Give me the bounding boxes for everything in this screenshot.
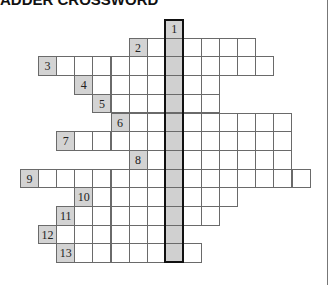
crossword-cell[interactable] (56, 225, 75, 245)
crossword-cell[interactable] (74, 56, 93, 76)
crossword-cell[interactable] (273, 169, 292, 189)
crossword-cell[interactable] (129, 206, 148, 226)
crossword-cell-key[interactable] (165, 131, 184, 151)
crossword-cell[interactable] (201, 38, 220, 58)
crossword-cell[interactable] (56, 169, 75, 189)
crossword-cell[interactable] (147, 75, 166, 95)
crossword-cell[interactable] (237, 131, 256, 151)
crossword-cell[interactable] (92, 131, 111, 151)
crossword-cell[interactable] (111, 75, 130, 95)
crossword-cell-key[interactable] (165, 113, 184, 133)
crossword-cell[interactable] (111, 94, 130, 114)
crossword-cell[interactable] (219, 150, 238, 170)
crossword-cell[interactable] (92, 206, 111, 226)
crossword-cell[interactable] (201, 206, 220, 226)
crossword-cell[interactable] (129, 56, 148, 76)
crossword-cell[interactable] (147, 94, 166, 114)
crossword-cell-numbered-6[interactable]: 6 (111, 113, 130, 133)
crossword-cell[interactable] (147, 150, 166, 170)
crossword-cell-numbered-8[interactable]: 8 (129, 150, 148, 170)
crossword-cell-key[interactable] (165, 56, 184, 76)
crossword-cell[interactable] (255, 150, 274, 170)
crossword-cell[interactable] (111, 56, 130, 76)
crossword-cell[interactable] (111, 206, 130, 226)
crossword-cell[interactable] (92, 169, 111, 189)
crossword-cell[interactable] (273, 131, 292, 151)
crossword-cell[interactable] (147, 131, 166, 151)
crossword-cell[interactable] (147, 187, 166, 207)
crossword-cell[interactable] (201, 113, 220, 133)
crossword-cell[interactable] (219, 38, 238, 58)
crossword-cell[interactable] (38, 169, 57, 189)
crossword-cell[interactable] (219, 187, 238, 207)
crossword-cell-key[interactable] (165, 75, 184, 95)
crossword-cell[interactable] (292, 169, 311, 189)
crossword-cell[interactable] (183, 56, 202, 76)
crossword-cell-numbered-1[interactable]: 1 (165, 19, 184, 39)
crossword-cell[interactable] (201, 187, 220, 207)
crossword-cell[interactable] (201, 56, 220, 76)
crossword-cell[interactable] (219, 131, 238, 151)
crossword-cell[interactable] (183, 94, 202, 114)
crossword-cell[interactable] (273, 150, 292, 170)
crossword-cell[interactable] (147, 56, 166, 76)
crossword-cell[interactable] (92, 187, 111, 207)
crossword-cell[interactable] (183, 206, 202, 226)
crossword-cell-key[interactable] (165, 243, 184, 263)
crossword-cell[interactable] (219, 113, 238, 133)
crossword-cell[interactable] (201, 131, 220, 151)
crossword-cell[interactable] (129, 243, 148, 263)
crossword-cell[interactable] (147, 243, 166, 263)
crossword-cell-numbered-2[interactable]: 2 (129, 38, 148, 58)
crossword-cell[interactable] (219, 56, 238, 76)
crossword-cell-numbered-7[interactable]: 7 (56, 131, 75, 151)
crossword-cell[interactable] (183, 243, 202, 263)
crossword-cell[interactable] (129, 225, 148, 245)
crossword-cell[interactable] (74, 131, 93, 151)
crossword-cell-numbered-4[interactable]: 4 (74, 75, 93, 95)
crossword-cell[interactable] (92, 75, 111, 95)
crossword-cell[interactable] (255, 131, 274, 151)
crossword-cell-key[interactable] (165, 225, 184, 245)
crossword-cell-numbered-3[interactable]: 3 (38, 56, 57, 76)
crossword-cell-numbered-10[interactable]: 10 (74, 187, 93, 207)
crossword-cell[interactable] (147, 206, 166, 226)
crossword-cell[interactable] (237, 169, 256, 189)
crossword-cell[interactable] (74, 243, 93, 263)
crossword-cell[interactable] (237, 38, 256, 58)
crossword-cell[interactable] (129, 113, 148, 133)
crossword-cell[interactable] (183, 187, 202, 207)
crossword-cell[interactable] (147, 225, 166, 245)
crossword-cell[interactable] (92, 243, 111, 263)
crossword-cell[interactable] (129, 131, 148, 151)
crossword-cell-key[interactable] (165, 206, 184, 226)
crossword-cell-numbered-12[interactable]: 12 (38, 225, 57, 245)
crossword-cell[interactable] (201, 150, 220, 170)
crossword-cell[interactable] (255, 56, 274, 76)
crossword-cell[interactable] (201, 94, 220, 114)
crossword-cell[interactable] (129, 75, 148, 95)
crossword-cell-numbered-9[interactable]: 9 (20, 169, 39, 189)
crossword-cell[interactable] (183, 150, 202, 170)
crossword-cell[interactable] (129, 94, 148, 114)
crossword-cell[interactable] (147, 113, 166, 133)
crossword-cell[interactable] (74, 169, 93, 189)
crossword-cell[interactable] (129, 169, 148, 189)
crossword-cell[interactable] (56, 56, 75, 76)
crossword-cell[interactable] (111, 169, 130, 189)
crossword-cell[interactable] (183, 113, 202, 133)
crossword-cell[interactable] (201, 75, 220, 95)
crossword-cell[interactable] (111, 225, 130, 245)
crossword-cell-key[interactable] (165, 169, 184, 189)
crossword-cell[interactable] (273, 113, 292, 133)
crossword-cell-numbered-5[interactable]: 5 (92, 94, 111, 114)
crossword-cell[interactable] (237, 56, 256, 76)
crossword-cell[interactable] (201, 169, 220, 189)
crossword-cell[interactable] (183, 38, 202, 58)
crossword-cell-numbered-13[interactable]: 13 (56, 243, 75, 263)
crossword-cell-key[interactable] (165, 150, 184, 170)
crossword-cell[interactable] (147, 169, 166, 189)
crossword-cell[interactable] (147, 38, 166, 58)
crossword-cell[interactable] (237, 150, 256, 170)
crossword-cell-key[interactable] (165, 187, 184, 207)
